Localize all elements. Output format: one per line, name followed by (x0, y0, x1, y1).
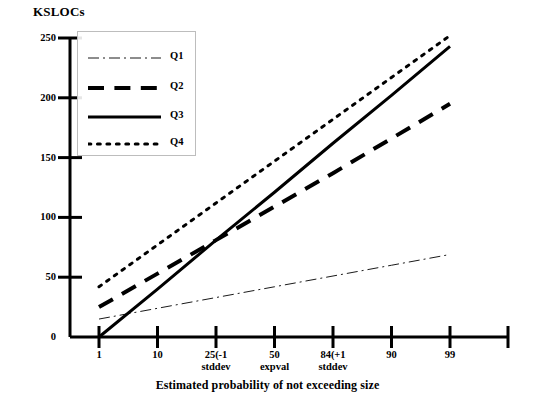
x-tick-label-line1: 99 (445, 349, 456, 360)
legend-line-sample-q4 (88, 143, 161, 145)
y-tick-label: 250 (20, 33, 56, 43)
legend-item-q1: Q1 (78, 46, 197, 70)
x-tick-label-line1: 84(+1 (320, 349, 345, 360)
chart-legend: Q1Q2Q3Q4 (77, 31, 196, 156)
y-tick-label: 150 (20, 153, 56, 163)
series-line-q1 (99, 254, 450, 319)
y-tick-label: 50 (20, 272, 56, 282)
legend-line-sample-q1 (88, 57, 161, 59)
x-tick-label-line1: 50 (269, 349, 280, 360)
x-tick-label-line1: 10 (152, 349, 163, 360)
legend-line-sample-q3 (88, 116, 161, 118)
x-tick-label-line1: 1 (96, 349, 101, 360)
legend-item-q4: Q4 (78, 132, 197, 156)
legend-line-sample-q2 (88, 87, 161, 89)
x-axis-title: Estimated probability of not exceeding s… (0, 378, 535, 393)
x-tick-label-line1: 25(-1 (205, 349, 228, 360)
x-tick-label-line2: stddev (294, 361, 372, 373)
y-tick-label: 100 (20, 212, 56, 222)
chart-figure: KSLOCs 050100150200250 11025(-1stddev50e… (0, 0, 535, 402)
x-tick-label: 99 (411, 349, 489, 361)
legend-label: Q4 (170, 136, 183, 147)
legend-label: Q1 (170, 50, 183, 61)
y-tick-label: 0 (20, 332, 56, 342)
y-tick-label: 200 (20, 93, 56, 103)
legend-item-q2: Q2 (78, 76, 197, 100)
x-tick-label-line1: 90 (386, 349, 397, 360)
legend-item-q3: Q3 (78, 105, 197, 129)
legend-label: Q3 (170, 109, 183, 120)
legend-label: Q2 (170, 80, 183, 91)
